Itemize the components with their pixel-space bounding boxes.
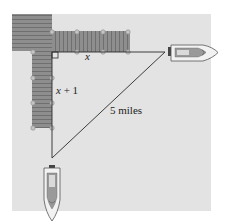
dock-vertical-pier bbox=[32, 51, 52, 128]
boat-south-icon bbox=[44, 165, 60, 221]
dock-main-block bbox=[12, 14, 52, 51]
diagram: x x + 1 5 miles bbox=[0, 0, 229, 224]
hypotenuse-label: 5 miles bbox=[110, 104, 142, 116]
vertical-leg-offset: + 1 bbox=[61, 84, 78, 96]
vertical-leg-label: x + 1 bbox=[56, 84, 78, 96]
horizontal-leg-label: x bbox=[85, 50, 90, 62]
dock-horizontal-pier bbox=[52, 31, 130, 52]
